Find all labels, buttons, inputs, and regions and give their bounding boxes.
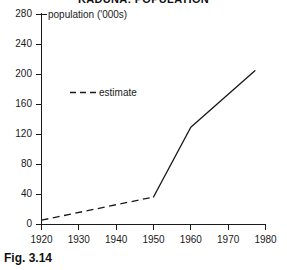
legend-label-estimate: estimate — [99, 87, 137, 98]
plot-area — [0, 0, 287, 270]
x-tick-label-1960: 1960 — [171, 234, 211, 245]
figure-caption: Fig. 3.14 — [4, 251, 52, 265]
y-tick-label-240: 240 — [2, 38, 32, 49]
y-tick-label-120: 120 — [2, 128, 32, 139]
series-estimate-line — [42, 197, 154, 220]
x-tick-label-1970: 1970 — [208, 234, 248, 245]
x-tick-label-1980: 1980 — [246, 234, 286, 245]
x-tick-label-1920: 1920 — [22, 234, 62, 245]
y-tick-label-80: 80 — [2, 158, 32, 169]
y-axis-title: population ('000s) — [48, 9, 127, 20]
x-tick-label-1930: 1930 — [59, 234, 99, 245]
x-tick-label-1950: 1950 — [134, 234, 174, 245]
x-tick-marks — [42, 225, 266, 231]
y-tick-label-280: 280 — [2, 8, 32, 19]
y-tick-label-0: 0 — [2, 218, 32, 229]
series-recorded-line — [154, 71, 255, 197]
figure-container: KADUNA: POPULATION — [0, 0, 287, 270]
y-tick-label-200: 200 — [2, 68, 32, 79]
y-tick-label-40: 40 — [2, 188, 32, 199]
x-tick-label-1940: 1940 — [96, 234, 136, 245]
y-tick-label-160: 160 — [2, 98, 32, 109]
